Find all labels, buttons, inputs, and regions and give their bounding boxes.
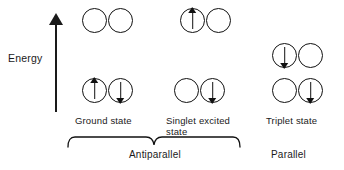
- orbital: [174, 78, 199, 103]
- singlet-excited-state-upper-level: [180, 8, 231, 33]
- spin-down-arrow-icon: [310, 82, 312, 99]
- state-label-triplet-state: Triplet state: [266, 115, 317, 126]
- spin-up-arrow-icon: [94, 82, 96, 99]
- energy-axis-line: [55, 20, 57, 112]
- energy-axis-label: Energy: [8, 52, 42, 64]
- group-label-parallel: Parallel: [271, 149, 306, 160]
- triplet-state-lower-level: [272, 78, 323, 103]
- spin-state-energy-diagram: Energy Ground state Singlet: [0, 0, 344, 170]
- spin-down-arrow-icon: [120, 82, 122, 99]
- orbital: [272, 43, 297, 68]
- state-label-ground-state: Ground state: [75, 115, 132, 126]
- orbital: [298, 43, 323, 68]
- orbital: [272, 78, 297, 103]
- orbital: [82, 78, 107, 103]
- triplet-state-upper-level: [272, 43, 323, 68]
- orbital: [206, 8, 231, 33]
- antiparallel-brace-icon: [66, 134, 242, 148]
- orbital: [108, 78, 133, 103]
- ground-state-upper-level: [82, 8, 133, 33]
- orbital: [298, 78, 323, 103]
- spin-down-arrow-icon: [212, 82, 214, 99]
- orbital: [82, 8, 107, 33]
- singlet-excited-state-lower-level: [174, 78, 225, 103]
- orbital: [180, 8, 205, 33]
- spin-down-arrow-icon: [284, 47, 286, 64]
- ground-state-lower-level: [82, 78, 133, 103]
- group-label-antiparallel: Antiparallel: [129, 149, 181, 160]
- spin-up-arrow-icon: [192, 12, 194, 29]
- orbital: [108, 8, 133, 33]
- orbital: [200, 78, 225, 103]
